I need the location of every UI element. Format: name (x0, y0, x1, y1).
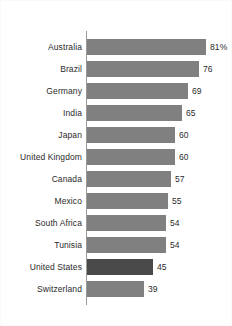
bar[interactable] (87, 149, 175, 165)
value-label: 60 (179, 127, 189, 143)
category-label: United Kingdom (20, 149, 82, 165)
category-label: South Africa (35, 215, 82, 231)
value-label: 39 (148, 281, 158, 297)
value-label: 45 (157, 259, 167, 275)
bar[interactable] (87, 61, 199, 77)
bar-chart-plot: Australia81%Brazil76Germany69India65Japa… (1, 1, 232, 326)
value-label: 55 (172, 193, 182, 209)
bar-row: Tunisia54 (1, 237, 232, 253)
chart-figure: Australia81%Brazil76Germany69India65Japa… (0, 0, 232, 326)
value-label: 60 (179, 149, 189, 165)
category-label: Mexico (54, 193, 82, 209)
category-label: Switzerland (37, 281, 82, 297)
category-label: India (63, 105, 82, 121)
bar[interactable] (87, 127, 175, 143)
category-label: United States (30, 259, 82, 275)
value-label: 54 (170, 215, 180, 231)
bar-row: Canada57 (1, 171, 232, 187)
bar-row: United States45 (1, 259, 232, 275)
value-label: 54 (170, 237, 180, 253)
value-label: 76 (203, 61, 213, 77)
bar-highlighted[interactable] (87, 259, 153, 275)
category-label: Japan (58, 127, 82, 143)
bar-row: Germany69 (1, 83, 232, 99)
value-label: 57 (175, 171, 185, 187)
bar[interactable] (87, 237, 166, 253)
bar-row: South Africa54 (1, 215, 232, 231)
category-label: Germany (46, 83, 82, 99)
bar-row: Brazil76 (1, 61, 232, 77)
category-label: Tunisia (54, 237, 82, 253)
bar[interactable] (87, 171, 171, 187)
bar[interactable] (87, 83, 188, 99)
bar-row: Switzerland39 (1, 281, 232, 297)
category-label: Australia (48, 39, 82, 55)
category-label: Brazil (60, 61, 82, 77)
bar-row: Japan60 (1, 127, 232, 143)
bar[interactable] (87, 39, 206, 55)
value-label: 65 (186, 105, 196, 121)
bar-row: India65 (1, 105, 232, 121)
value-label: 69 (192, 83, 202, 99)
bar-row: Mexico55 (1, 193, 232, 209)
bar[interactable] (87, 105, 182, 121)
category-label: Canada (52, 171, 82, 187)
bar[interactable] (87, 281, 144, 297)
bar[interactable] (87, 193, 168, 209)
bar-row: United Kingdom60 (1, 149, 232, 165)
bar[interactable] (87, 215, 166, 231)
bar-row: Australia81% (1, 39, 232, 55)
value-label: 81% (210, 39, 227, 55)
